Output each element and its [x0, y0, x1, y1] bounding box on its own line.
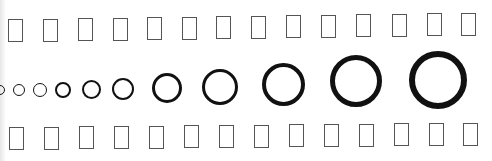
- missing-glyph-box-icon: [394, 123, 409, 146]
- missing-glyph-box-icon: [254, 125, 269, 148]
- bottom-tofu-box-row: Missing glyph boxes (bottom row): [0, 0, 492, 161]
- missing-glyph-box-icon: [9, 127, 24, 150]
- missing-glyph-box-icon: [184, 125, 199, 148]
- missing-glyph-box-icon: [114, 126, 129, 149]
- missing-glyph-box-icon: [79, 126, 94, 149]
- missing-glyph-box-icon: [289, 124, 304, 147]
- missing-glyph-box-icon: [359, 124, 374, 147]
- missing-glyph-box-icon: [149, 126, 164, 149]
- bottom-row-label: Missing glyph boxes (bottom row): [0, 0, 1, 1]
- missing-glyph-box-icon: [324, 124, 339, 147]
- missing-glyph-box-icon: [463, 123, 478, 146]
- scanned-page: Missing glyph boxes (top row) Ring glyph…: [0, 0, 492, 161]
- missing-glyph-box-icon: [219, 125, 234, 148]
- missing-glyph-box-icon: [429, 123, 444, 146]
- missing-glyph-box-icon: [44, 127, 59, 150]
